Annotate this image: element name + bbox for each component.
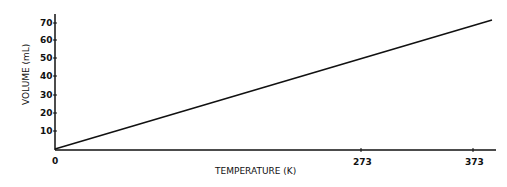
y-tick-60: 60	[40, 35, 53, 45]
y-axis-label: VOLUME (mL)	[21, 44, 31, 105]
x-axis-label: TEMPERATURE (K)	[214, 166, 296, 176]
y-tick-50: 50	[40, 53, 53, 63]
y-tick-40: 40	[40, 71, 53, 81]
chart: 10 20 30 40 50 60 70 0 273 373 TEMPERATU…	[0, 0, 507, 187]
data-line	[55, 20, 492, 149]
y-tick-20: 20	[40, 108, 53, 118]
y-tick-10: 10	[40, 126, 53, 136]
x-tick-373: 373	[465, 157, 484, 167]
y-tick-70: 70	[40, 18, 53, 28]
x-tick-273: 273	[353, 157, 372, 167]
x-tick-0: 0	[52, 156, 58, 166]
y-tick-30: 30	[40, 90, 53, 100]
